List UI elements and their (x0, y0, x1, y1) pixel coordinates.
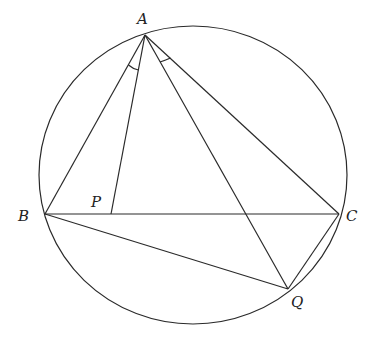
segment-AB (45, 35, 145, 214)
label-B: B (17, 207, 29, 225)
segment-CQ (288, 214, 339, 289)
angle-mark-QAC (160, 58, 171, 62)
label-P: P (90, 193, 102, 211)
label-A: A (135, 10, 148, 28)
label-Q: Q (291, 293, 303, 311)
circumcircle (39, 26, 347, 324)
geometry-diagram: A B C P Q (0, 0, 382, 344)
label-C: C (346, 207, 358, 225)
segment-AP (111, 35, 145, 214)
segment-AC (145, 35, 339, 214)
angle-mark-BAP (129, 65, 139, 70)
